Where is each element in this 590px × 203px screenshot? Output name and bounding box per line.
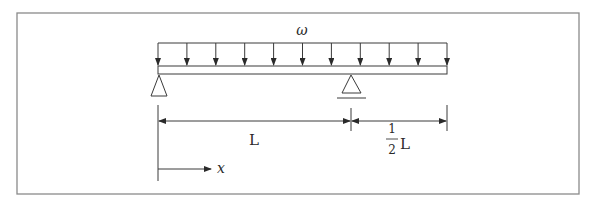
diagram-frame xyxy=(17,13,579,194)
x-axis-label: x xyxy=(217,160,225,176)
right-roller-support xyxy=(337,75,366,98)
distributed-load xyxy=(158,43,447,65)
span-label: L xyxy=(249,131,259,149)
overhang-label: 1 2 L xyxy=(386,122,410,157)
overhang-unit: L xyxy=(400,135,410,153)
load-label: ω xyxy=(296,22,308,38)
left-pin-support xyxy=(151,75,167,96)
load-arrows xyxy=(158,43,447,65)
fraction-numerator: 1 xyxy=(388,122,396,136)
fraction-denominator: 2 xyxy=(388,143,396,157)
beam-diagram: ω L 1 2 L x xyxy=(0,0,590,203)
beam xyxy=(158,66,447,74)
